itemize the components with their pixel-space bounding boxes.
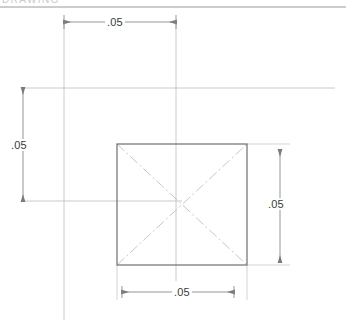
dimension-label-top: .05 <box>105 16 125 28</box>
dimension-label-left: .05 <box>9 139 29 151</box>
drawing-svg <box>0 0 346 331</box>
dimension-label-right: .05 <box>266 198 286 210</box>
technical-drawing-canvas: DRAWING <box>0 0 346 331</box>
dimension-label-bottom: .05 <box>172 286 192 298</box>
